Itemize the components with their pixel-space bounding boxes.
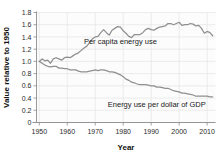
x-tick-label: 1960 [59,128,75,135]
x-tick-label: 1970 [87,128,103,135]
y-tick-label: 0 [28,119,32,126]
energy-use-line-chart: 1950196019701980199020002010 00.20.40.60… [0,0,224,158]
y-tick-label: 0.8 [22,70,32,77]
series-label-1: Energy use per dollar of GDP [108,100,206,109]
x-tick-label: 1990 [143,128,159,135]
x-tick-labels: 1950196019701980199020002010 [32,128,215,135]
y-tick-label: 1.0 [22,58,32,65]
x-tick-label: 2000 [171,128,187,135]
y-tick-label: 1.8 [22,9,32,16]
chart-container: 1950196019701980199020002010 00.20.40.60… [0,0,224,158]
y-tick-label: 0.4 [22,95,32,102]
y-tick-labels: 00.20.40.60.81.01.21.41.61.8 [22,9,32,126]
y-tick-label: 1.6 [22,21,32,28]
y-tick-label: 0.2 [22,107,32,114]
x-tick-label: 2010 [199,128,215,135]
y-tick-label: 1.2 [22,46,32,53]
x-tick-label: 1980 [115,128,131,135]
y-tick-label: 1.4 [22,34,32,41]
y-axis-title: Value relative to 1950 [2,26,11,107]
x-tick-label: 1950 [32,128,48,135]
y-tick-label: 0.6 [22,82,32,89]
series-label-0: Per capita energy use [84,37,157,46]
x-axis-title: Year [118,143,135,152]
